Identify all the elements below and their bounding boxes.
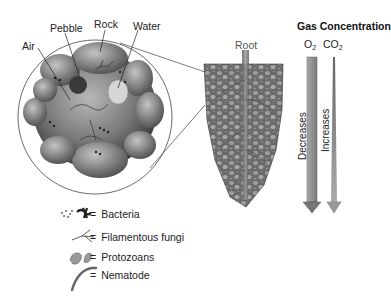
rock-label: Rock [94,18,118,30]
root-label: Root [235,39,257,51]
legend-item-fungi: = Filamentous fungi [52,229,184,245]
water-label: Water [133,20,161,32]
o2-trend-label: Decreases [297,112,308,160]
root-shaft [242,50,249,200]
legend-label: Bacteria [101,208,140,220]
legend-equals: = [90,208,96,220]
legend-label: Nematode [101,269,149,281]
o2-label: O2 [304,38,316,54]
co2-base: CO [323,38,339,50]
legend-item-nematode: = Nematode [52,267,150,283]
co2-label: CO2 [323,38,343,54]
co2-sub: 2 [339,44,343,51]
root-soil-section [204,50,283,207]
legend-equals: = [90,251,96,263]
water-droplet [108,80,128,104]
o2-sub: 2 [312,44,316,51]
legend-item-protozoa: = Protozoans [52,249,154,265]
soil-aggregate [23,42,164,178]
legend-equals: = [90,269,96,281]
legend-label: Filamentous fungi [101,231,184,243]
co2-trend-label: Increases [320,109,331,152]
magnified-soil-view [18,30,205,194]
legend-item-bacteria: = Bacteria [52,206,140,222]
legend-label: Protozoans [101,251,154,263]
o2-base: O [304,38,312,50]
legend-equals: = [90,231,96,243]
pebble-label: Pebble [50,22,83,34]
air-label: Air [22,40,35,52]
gas-concentration-title: Gas Concentration [297,20,391,32]
